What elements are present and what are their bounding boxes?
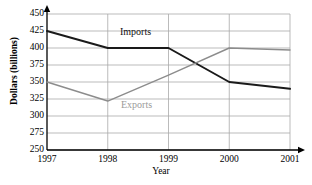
- x-tick-label: 2000: [209, 155, 249, 165]
- x-axis-title: Year: [136, 166, 186, 176]
- x-tick-label: 1999: [149, 155, 189, 165]
- x-tick-label: 1998: [88, 155, 128, 165]
- series-label-imports: Imports: [120, 26, 151, 37]
- x-axis-tick-labels: 19971998199920002001: [0, 0, 312, 185]
- x-tick-label: 2001: [270, 155, 310, 165]
- x-tick-label: 1997: [27, 155, 67, 165]
- series-label-exports: Exports: [121, 99, 152, 110]
- line-chart-figure: Dollars (billions) 250275300325350375400…: [0, 0, 312, 185]
